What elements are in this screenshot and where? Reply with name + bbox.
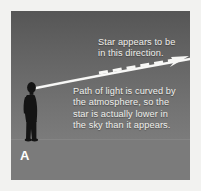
illustration-panel: Star appears to be in this direction. Pa…	[11, 11, 190, 180]
apparent-direction-dashed-line	[99, 60, 174, 73]
panel-label: A	[20, 149, 29, 162]
figure-frame: Star appears to be in this direction. Pa…	[0, 0, 201, 191]
observer-silhouette	[24, 82, 39, 141]
callout-star-apparent-direction: Star appears to be in this direction.	[98, 37, 190, 60]
actual-light-path-glow	[31, 59, 190, 89]
callout-refraction-explanation: Path of light is curved by the atmospher…	[73, 86, 190, 132]
